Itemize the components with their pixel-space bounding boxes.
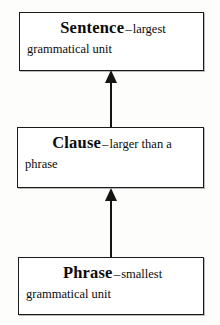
node-phrase-line-1: Phrase–smallest <box>26 263 199 283</box>
node-clause-line-2: phrase <box>25 154 199 172</box>
node-clause-line-1: Clause–larger than a <box>25 133 199 153</box>
node-phrase-desc-continued: grammatical unit <box>26 287 111 301</box>
node-sentence-dash: – <box>124 21 133 36</box>
node-clause: Clause–larger than a phrase <box>17 127 204 188</box>
node-phrase-desc: smallest <box>121 267 162 281</box>
node-sentence-line-2: grammatical unit <box>27 39 199 57</box>
node-sentence-desc: largest <box>133 22 166 36</box>
node-clause-desc-continued: phrase <box>25 157 58 171</box>
arrow-phrase-to-clause <box>104 188 118 258</box>
node-phrase-dash: – <box>113 266 122 281</box>
arrow-shaft <box>110 74 112 128</box>
arrow-clause-to-sentence <box>104 70 118 128</box>
node-clause-term: Clause <box>52 133 101 152</box>
arrow-shaft <box>110 192 112 258</box>
node-sentence-term: Sentence <box>60 18 124 37</box>
node-sentence-desc-continued: grammatical unit <box>27 42 112 56</box>
grammar-hierarchy-diagram: Sentence–largest grammatical unit Clause… <box>0 0 220 325</box>
node-phrase-line-2: grammatical unit <box>26 284 199 302</box>
node-phrase: Phrase–smallest grammatical unit <box>18 257 204 315</box>
node-phrase-term: Phrase <box>63 263 113 282</box>
node-sentence: Sentence–largest grammatical unit <box>19 12 204 71</box>
node-sentence-line-1: Sentence–largest <box>27 18 199 38</box>
node-clause-dash: – <box>101 136 110 151</box>
node-clause-desc: larger than a <box>110 137 172 151</box>
